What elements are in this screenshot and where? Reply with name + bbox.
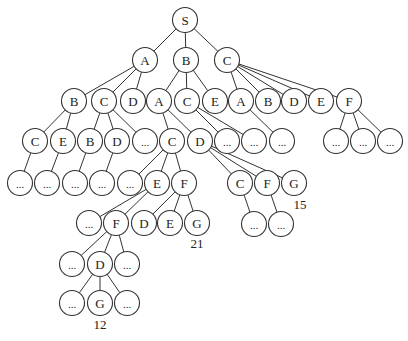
node-label: ... xyxy=(386,136,395,148)
node-label: ... xyxy=(85,218,94,230)
tree-node-f: F xyxy=(104,211,129,236)
node-label: E xyxy=(59,134,67,149)
tree-node-ellipsis: ... xyxy=(115,291,140,316)
tree-node-ellipsis: ... xyxy=(242,129,267,154)
node-label: C xyxy=(168,134,177,149)
node-label: F xyxy=(180,176,187,191)
node-label: D xyxy=(112,134,121,149)
tree-node-c: C xyxy=(215,48,240,73)
tree-node-e: E xyxy=(203,89,228,114)
node-label: B xyxy=(182,53,191,68)
tree-node-ellipsis: ... xyxy=(270,129,295,154)
tree-node-g: G xyxy=(185,211,210,236)
tree-edge xyxy=(94,113,100,129)
node-label: ... xyxy=(277,219,286,231)
node-label: ... xyxy=(68,259,77,271)
tree-node-ellipsis: ... xyxy=(242,212,267,237)
node-label: D xyxy=(95,257,104,272)
node-label: G xyxy=(289,176,298,191)
tree-node-c: C xyxy=(175,89,200,114)
node-label: B xyxy=(264,94,273,109)
tree-edge xyxy=(194,29,218,52)
tree-node-e: E xyxy=(309,89,334,114)
node-label: ... xyxy=(250,136,259,148)
node-label: ... xyxy=(123,259,132,271)
tree-node-a: A xyxy=(147,89,172,114)
node-label: ... xyxy=(332,136,341,148)
node-label: D xyxy=(139,216,148,231)
tree-edge xyxy=(340,113,345,129)
tree-edge xyxy=(353,113,359,129)
tree-node-ellipsis: ... xyxy=(115,252,140,277)
tree-edge xyxy=(244,195,250,212)
node-label: C xyxy=(183,94,192,109)
node-label: E xyxy=(166,216,174,231)
tree-node-a: A xyxy=(229,89,254,114)
node-label: ... xyxy=(223,136,232,148)
node-label: ... xyxy=(126,178,135,190)
tree-edge xyxy=(193,70,208,91)
tree-edge xyxy=(231,72,237,89)
tree-node-ellipsis: ... xyxy=(351,129,376,154)
node-label: A xyxy=(236,94,246,109)
tree-node-d: D xyxy=(188,129,213,154)
tree-edge xyxy=(175,153,180,171)
node-label: C xyxy=(236,176,245,191)
tree-edge xyxy=(105,235,112,253)
node-label: G xyxy=(95,296,104,311)
tree-node-ellipsis: ... xyxy=(60,291,85,316)
tree-node-c: C xyxy=(228,171,253,196)
tree-node-ellipsis: ... xyxy=(324,129,349,154)
tree-node-ellipsis: ... xyxy=(378,129,403,154)
node-label: B xyxy=(86,134,95,149)
tree-node-ellipsis: ... xyxy=(269,212,294,237)
node-label: C xyxy=(100,94,109,109)
node-label: F xyxy=(263,176,270,191)
tree-node-d: D xyxy=(282,89,307,114)
node-label: F xyxy=(345,94,352,109)
node-label: ... xyxy=(98,178,107,190)
tree-node-ellipsis: ... xyxy=(215,129,240,154)
tree-node-c: C xyxy=(23,129,48,154)
tree-node-c: C xyxy=(92,89,117,114)
tree-edge xyxy=(188,195,193,211)
node-label: ... xyxy=(71,178,80,190)
tree-edge xyxy=(106,153,113,171)
goal-cost-label: 15 xyxy=(294,197,307,212)
tree-node-g: G xyxy=(88,291,113,316)
tree-node-ellipsis: ... xyxy=(35,171,60,196)
tree-node-d: D xyxy=(132,211,157,236)
node-label: ... xyxy=(278,136,287,148)
node-label: ... xyxy=(43,178,52,190)
tree-node-f: F xyxy=(172,171,197,196)
node-label: ... xyxy=(250,219,259,231)
tree-edge xyxy=(119,235,124,252)
tree-edge xyxy=(24,153,31,171)
tree-node-b: B xyxy=(174,48,199,73)
tree-node-ellipsis: ... xyxy=(118,171,143,196)
tree-node-f: F xyxy=(337,89,362,114)
node-label: C xyxy=(31,134,40,149)
node-label: D xyxy=(195,134,204,149)
tree-node-ellipsis: ... xyxy=(77,211,102,236)
tree-edge xyxy=(79,274,92,293)
tree-node-ellipsis: ... xyxy=(60,252,85,277)
tree-node-e: E xyxy=(51,129,76,154)
node-label: E xyxy=(211,94,219,109)
search-tree-diagram: SABCBCDACEABDEFCEBD...CD................… xyxy=(0,0,408,341)
tree-edge xyxy=(66,113,70,129)
tree-edge xyxy=(79,153,86,171)
tree-node-ellipsis: ... xyxy=(133,129,158,154)
node-label: A xyxy=(140,53,150,68)
node-label: ... xyxy=(123,298,132,310)
node-label: ... xyxy=(141,136,150,148)
tree-edge xyxy=(107,274,120,292)
tree-node-ellipsis: ... xyxy=(63,171,88,196)
tree-node-ellipsis: ... xyxy=(90,171,115,196)
tree-node-b: B xyxy=(78,129,103,154)
tree-node-d: D xyxy=(105,129,130,154)
node-label: C xyxy=(223,53,232,68)
node-label: ... xyxy=(16,178,25,190)
node-label: E xyxy=(153,176,161,191)
tree-node-b: B xyxy=(256,89,281,114)
